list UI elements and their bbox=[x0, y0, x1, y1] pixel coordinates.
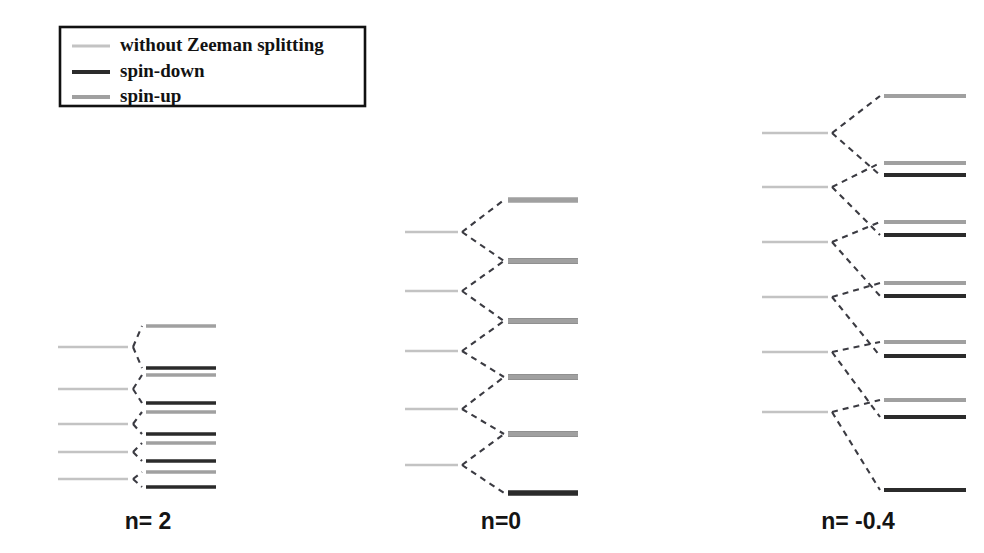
zeeman-splitting-diagram: n= 2n=0n= -0.4 without Zeeman splittings… bbox=[0, 0, 984, 553]
panel-label: n= -0.4 bbox=[821, 508, 895, 534]
legend-item-label: spin-up bbox=[120, 85, 181, 106]
legend-item-label: spin-down bbox=[120, 60, 205, 81]
legend-box: without Zeeman splittingspin-downspin-up bbox=[60, 27, 365, 106]
figure-root: n= 2n=0n= -0.4 without Zeeman splittings… bbox=[0, 0, 984, 553]
panel-label: n= 2 bbox=[125, 508, 172, 534]
panel-label: n=0 bbox=[481, 508, 521, 534]
legend-item-label: without Zeeman splitting bbox=[120, 34, 324, 55]
